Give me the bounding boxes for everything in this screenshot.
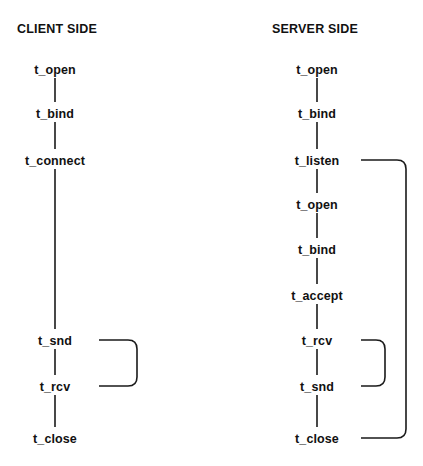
node-server-4: t_bind xyxy=(298,243,336,257)
node-server-6: t_rcv xyxy=(302,334,332,348)
node-server-2: t_listen xyxy=(295,154,340,168)
node-server-3: t_open xyxy=(296,198,338,212)
node-client-4: t_rcv xyxy=(40,380,70,394)
node-client-0: t_open xyxy=(34,63,76,77)
column-title-server: SERVER SIDE xyxy=(272,22,358,36)
node-client-5: t_close xyxy=(33,432,77,446)
node-server-8: t_close xyxy=(295,432,339,446)
node-client-1: t_bind xyxy=(36,107,74,121)
column-client: CLIENT SIDEt_opent_bindt_connectt_sndt_r… xyxy=(11,22,137,447)
node-server-1: t_bind xyxy=(298,107,336,121)
node-server-5: t_accept xyxy=(291,289,343,303)
node-server-0: t_open xyxy=(296,63,338,77)
node-client-2: t_connect xyxy=(25,154,86,168)
node-server-7: t_snd xyxy=(300,380,334,394)
node-client-3: t_snd xyxy=(38,334,72,348)
column-server: SERVER SIDEt_opent_bindt_listent_opent_b… xyxy=(272,22,406,447)
flow-svg: CLIENT SIDEt_opent_bindt_connectt_sndt_r… xyxy=(0,0,423,466)
protocol-flow-diagram: CLIENT SIDEt_opent_bindt_connectt_sndt_r… xyxy=(0,0,423,466)
column-title-client: CLIENT SIDE xyxy=(17,22,97,36)
